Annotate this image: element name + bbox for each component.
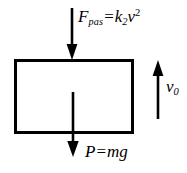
drag-force-label: Fpas=k2v2 <box>78 8 140 27</box>
drag-force-subscript: pas <box>88 16 103 27</box>
weight-label: P=mg <box>85 143 128 160</box>
drag-force-exponent: 2 <box>135 7 140 18</box>
weight-symbol: P <box>85 142 95 161</box>
drag-force-symbol: F <box>78 7 88 26</box>
weight-gravity: g <box>119 142 128 161</box>
weight-arrow <box>67 92 78 157</box>
weight-mass: m <box>107 142 119 161</box>
weight-operator: = <box>95 142 107 161</box>
velocity-arrow <box>153 60 164 119</box>
velocity-label: v0 <box>166 78 179 97</box>
velocity-symbol: v <box>166 77 174 96</box>
drag-force-operator: = <box>103 7 115 26</box>
free-body-diagram: Fpas=k2v2 P=mg v0 <box>0 0 187 173</box>
drag-force-variable: v <box>128 7 136 26</box>
velocity-subscript: 0 <box>174 86 179 97</box>
drag-force-arrow <box>67 8 78 60</box>
